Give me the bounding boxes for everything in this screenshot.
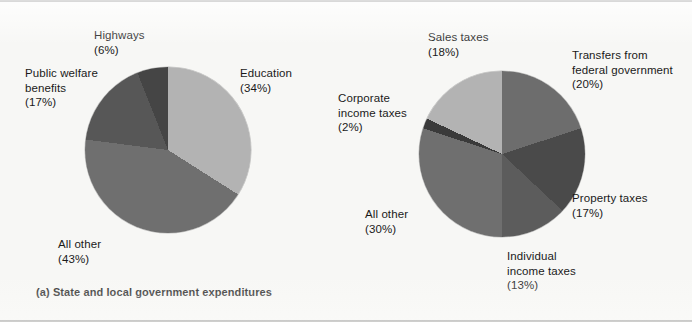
pie-chart-revenue bbox=[419, 71, 585, 237]
pie-label-highways: Highways (6%) bbox=[94, 28, 145, 57]
pie-label-transfers-from-federal-government: Transfers from federal government (20%) bbox=[572, 48, 673, 92]
pie-label-sales-taxes: Sales taxes (18%) bbox=[428, 30, 489, 59]
pie-label-all-other: All other (30%) bbox=[365, 207, 408, 236]
panel-state-local-revenue: Sales taxes (18%) Transfers from federal… bbox=[346, 0, 692, 322]
figure-two-pie-charts: Highways (6%) Education (34%) Public wel… bbox=[0, 0, 692, 322]
panel-caption-a: (a) State and local government expenditu… bbox=[36, 286, 272, 298]
pie-label-property-taxes: Property taxes (17%) bbox=[572, 191, 648, 220]
pie-label-corporate-income-taxes: Corporate income taxes (2%) bbox=[338, 91, 407, 135]
pie-label-public-welfare-benefits: Public welfare benefits (17%) bbox=[25, 66, 98, 110]
pie-label-individual-income-taxes: Individual income taxes (13%) bbox=[507, 249, 576, 293]
pie-chart-expenditures bbox=[85, 67, 251, 233]
pie-label-education: Education (34%) bbox=[240, 66, 292, 95]
panel-state-local-expenditures: Highways (6%) Education (34%) Public wel… bbox=[0, 0, 346, 322]
pie-label-all-other: All other (43%) bbox=[58, 237, 101, 266]
